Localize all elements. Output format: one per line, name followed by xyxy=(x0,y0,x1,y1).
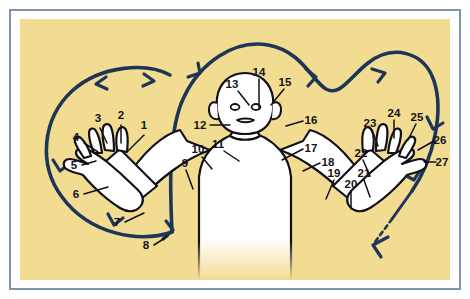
arrowhead-right-rise xyxy=(372,69,385,82)
label-16: 16 xyxy=(305,114,318,126)
mouth-shape xyxy=(237,119,254,123)
label-15: 15 xyxy=(279,76,292,88)
leader-7 xyxy=(125,213,144,222)
label-25: 25 xyxy=(411,111,424,123)
label-13: 13 xyxy=(226,78,239,90)
label-5: 5 xyxy=(71,159,78,171)
label-1: 1 xyxy=(141,119,148,131)
leader-1 xyxy=(128,135,144,151)
anatomy-diagram: 1 2 3 4 5 6 7 8 9 10 11 12 13 14 15 16 1… xyxy=(20,19,450,280)
label-12: 12 xyxy=(194,119,207,131)
right-finger-middle xyxy=(376,124,387,151)
label-6: 6 xyxy=(73,188,79,200)
arrowhead-right-side xyxy=(427,117,443,129)
label-27: 27 xyxy=(436,156,449,168)
label-19: 19 xyxy=(328,167,341,179)
label-4: 4 xyxy=(73,131,80,143)
label-8: 8 xyxy=(143,239,150,251)
label-23: 23 xyxy=(364,117,377,129)
left-finger-index xyxy=(116,127,127,152)
left-eye xyxy=(231,104,240,110)
arrowhead-head-right xyxy=(306,69,316,86)
diagram-canvas: 1 2 3 4 5 6 7 8 9 10 11 12 13 14 15 16 1… xyxy=(20,19,450,280)
label-7: 7 xyxy=(114,216,120,228)
arrowhead-left-top-2 xyxy=(143,74,154,86)
label-21: 21 xyxy=(358,167,371,179)
right-ear-shape xyxy=(272,102,281,119)
label-3: 3 xyxy=(95,112,101,124)
human-figure xyxy=(64,73,427,280)
left-ear-shape xyxy=(209,102,218,119)
label-14: 14 xyxy=(253,66,266,78)
label-24: 24 xyxy=(388,107,401,119)
figure-frame: 1 2 3 4 5 6 7 8 9 10 11 12 13 14 15 16 1… xyxy=(0,0,470,299)
label-2: 2 xyxy=(118,109,124,121)
label-22: 22 xyxy=(355,147,368,159)
flow-tail xyxy=(392,191,412,219)
label-10: 10 xyxy=(192,143,205,155)
leader-19 xyxy=(326,180,334,199)
arrowhead-left-top-1 xyxy=(96,77,107,89)
label-17: 17 xyxy=(305,142,318,154)
label-26: 26 xyxy=(434,134,447,146)
label-20: 20 xyxy=(345,178,358,190)
arrowhead-head-left xyxy=(188,63,200,77)
label-9: 9 xyxy=(182,157,188,169)
torso-shape xyxy=(199,131,291,280)
leader-9 xyxy=(186,170,193,189)
label-11: 11 xyxy=(212,138,225,150)
leader-16 xyxy=(286,121,303,126)
left-finger-ring xyxy=(89,129,102,153)
